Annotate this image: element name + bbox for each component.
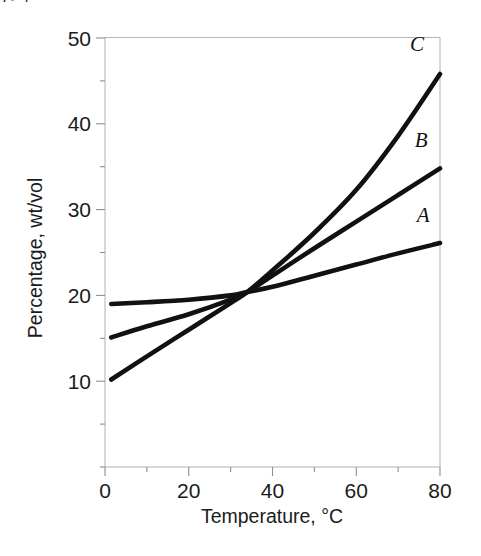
y-tick-label: 20 (68, 284, 91, 307)
y-tick-label: 40 (68, 112, 91, 135)
x-tick-label: 60 (345, 479, 368, 502)
series-label-c: C (410, 32, 425, 56)
series-label-a: A (415, 203, 430, 227)
series-label-group: ABC (410, 32, 430, 227)
x-tick-label: 40 (261, 479, 284, 502)
y-tick-label: 10 (68, 370, 91, 393)
y-tick-label: 50 (68, 27, 91, 50)
line-chart: 1020304050 020406080 ABC Temperature, °C… (0, 0, 481, 556)
y-axis-title: Percentage, wt/vol (24, 178, 46, 338)
figure-root: |◦ ⌐ 1020304050 020406080 ABC Temperatur… (0, 0, 481, 556)
x-tick-label: 80 (428, 479, 451, 502)
y-tick-label: 30 (68, 198, 91, 221)
y-axis-tick-labels: 1020304050 (68, 27, 91, 393)
data-series-group (111, 74, 440, 379)
x-axis-title: Temperature, °C (201, 505, 343, 527)
series-label-b: B (415, 128, 428, 152)
x-axis-ticks (105, 467, 440, 476)
x-tick-label: 0 (99, 479, 111, 502)
x-tick-label: 20 (177, 479, 200, 502)
y-axis-ticks (96, 38, 105, 467)
series-curve-c (111, 74, 440, 379)
x-axis-tick-labels: 020406080 (99, 479, 452, 502)
plot-frame (105, 38, 440, 468)
